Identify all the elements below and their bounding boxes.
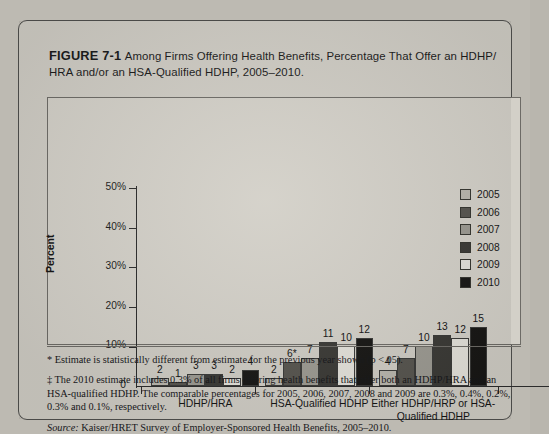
bar-value-label: 15 (465, 313, 493, 324)
y-tick-label: 50% (80, 181, 126, 192)
legend-label: 2006 (477, 207, 500, 218)
legend-swatch-icon (460, 259, 471, 270)
y-tick-label: 10% (80, 339, 126, 350)
y-tick-30 (129, 267, 137, 268)
legend-label: 2005 (477, 189, 500, 200)
legend-label: 2009 (477, 259, 500, 270)
legend-item: 2005 (460, 186, 500, 204)
legend: 200520062007200820092010 (460, 186, 500, 291)
legend-label: 2010 (477, 277, 500, 288)
chart-panel: Percent 010%20%30%40%50% 21332426*711101… (47, 97, 521, 345)
legend-item: 2007 (460, 221, 500, 239)
note-dagger: ‡ The 2010 estimate includes 0.3% of all… (47, 373, 521, 413)
legend-item: 2008 (460, 239, 500, 257)
y-tick-label: 40% (80, 221, 126, 232)
legend-label: 2007 (477, 224, 500, 235)
y-tick-label: 30% (80, 260, 126, 271)
figure-notes: * Estimate is statistically different fr… (47, 353, 521, 434)
legend-label: 2008 (477, 242, 500, 253)
figure-caption: FIGURE 7-1 Among Firms Offering Health B… (49, 48, 519, 80)
notes-divider (47, 346, 521, 347)
legend-item: 2006 (460, 204, 500, 222)
y-tick-40 (129, 228, 137, 229)
y-tick-50 (129, 188, 137, 189)
legend-swatch-icon (460, 277, 471, 288)
y-tick-label: 20% (80, 300, 126, 311)
legend-swatch-icon (460, 224, 471, 235)
y-tick-20 (129, 307, 137, 308)
legend-item: 2010 (460, 274, 500, 292)
legend-item: 2009 (460, 256, 500, 274)
figure-number: FIGURE 7-1 (49, 48, 121, 63)
source-text: Kaiser/HRET Survey of Employer-Sponsored… (79, 422, 392, 433)
source-line: Source: Kaiser/HRET Survey of Employer-S… (47, 421, 521, 434)
legend-swatch-icon (460, 242, 471, 253)
figure-container: FIGURE 7-1 Among Firms Offering Health B… (18, 20, 512, 420)
y-axis-title: Percent (44, 234, 56, 273)
note-asterisk: * Estimate is statistically different fr… (47, 353, 521, 366)
legend-swatch-icon (460, 189, 471, 200)
source-label: Source: (47, 422, 79, 433)
bar-value-label: 12 (351, 324, 379, 335)
legend-swatch-icon (460, 207, 471, 218)
